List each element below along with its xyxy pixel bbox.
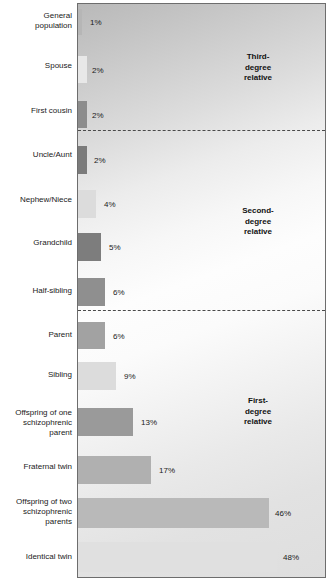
bar-offspring-one [78,408,133,436]
bar-row-first-cousin: 2% [78,101,325,128]
bar-grandchild [78,233,101,261]
bar-value-spouse: 2% [92,65,104,74]
bar-value-identical-twin: 48% [283,553,299,562]
bar-value-half-sibling: 6% [113,288,125,297]
bar-nephew-niece [78,190,96,218]
bar-value-first-cousin: 2% [92,110,104,119]
bar-value-grandchild: 5% [109,243,121,252]
category-label-first-cousin: First cousin [0,106,72,116]
bar-row-nephew-niece: 4% [78,190,325,218]
bar-offspring-two [78,498,269,528]
bar-row-parent: 6% [78,322,325,349]
category-label-grandchild: Grandchild [0,238,72,248]
category-label-spouse: Spouse [0,61,72,71]
category-label-parent: Parent [0,330,72,340]
bar-value-fraternal-twin: 17% [159,466,175,475]
bar-parent [78,322,105,349]
bar-row-general-population: 1% [78,9,325,35]
bar-identical-twin [78,542,277,572]
bar-first-cousin [78,101,87,128]
category-label-uncle-aunt: Uncle/Aunt [0,150,72,160]
category-label-fraternal-twin: Fraternal twin [0,462,72,472]
plot-area: Third- degree relative Second- degree re… [77,3,326,578]
category-label-sibling: Sibling [0,370,72,380]
bar-row-spouse: 2% [78,56,325,83]
separator-third-to-second-degree [78,130,325,131]
bar-spouse [78,56,87,83]
bar-uncle-aunt [78,146,87,174]
bar-value-offspring-one: 13% [141,418,157,427]
bar-row-sibling: 9% [78,362,325,390]
category-label-identical-twin: Identical twin [0,552,72,562]
bar-row-offspring-two: 46% [78,498,325,528]
category-label-offspring-one: Offspring of one schizophrenic parent [0,408,72,438]
bar-row-fraternal-twin: 17% [78,456,325,484]
bar-fraternal-twin [78,456,151,484]
bar-value-sibling: 9% [124,372,136,381]
category-label-half-sibling: Half-sibling [0,286,72,296]
category-axis-labels: General population Spouse First cousin U… [0,3,72,578]
bar-value-uncle-aunt: 2% [94,156,106,165]
bar-row-half-sibling: 6% [78,278,325,306]
category-label-general-population: General population [0,11,72,31]
bar-row-grandchild: 5% [78,233,325,261]
bar-general-population [78,9,82,35]
bar-row-identical-twin: 48% [78,542,325,572]
bar-row-uncle-aunt: 2% [78,146,325,174]
separator-second-to-first-degree [78,310,325,311]
schizophrenia-risk-chart: General population Spouse First cousin U… [0,0,333,588]
bar-value-nephew-niece: 4% [104,200,116,209]
category-label-offspring-two: Offspring of two schizophrenic parents [0,497,72,527]
bar-value-parent: 6% [113,331,125,340]
bar-sibling [78,362,116,390]
bar-value-general-population: 1% [90,18,102,27]
bar-value-offspring-two: 46% [275,509,291,518]
bar-half-sibling [78,278,105,306]
category-label-nephew-niece: Nephew/Niece [0,195,72,205]
bar-row-offspring-one: 13% [78,408,325,436]
